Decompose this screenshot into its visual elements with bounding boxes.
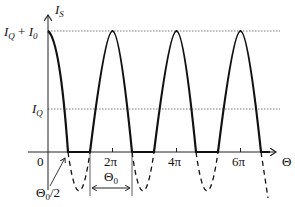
x-axis-label: Θ: [282, 154, 291, 169]
tick-label-2pi: 2π: [104, 154, 118, 169]
mid-level-label: IQ: [31, 101, 43, 118]
waveform-diagram: IS IQ + I0 IQ 0 2π 4π 6π Θ Θ0 Θ0/2: [0, 0, 295, 207]
tick-label-6pi: 6π: [232, 154, 246, 169]
y-axis-label: IS: [54, 2, 64, 19]
tick-label-0: 0: [37, 154, 44, 169]
half-angle-pointer: [50, 158, 65, 186]
full-angle-label: Θ0: [104, 169, 118, 186]
waveform-curve: [48, 31, 270, 152]
top-level-label: IQ + I0: [3, 24, 38, 41]
tick-label-4pi: 4π: [168, 154, 182, 169]
